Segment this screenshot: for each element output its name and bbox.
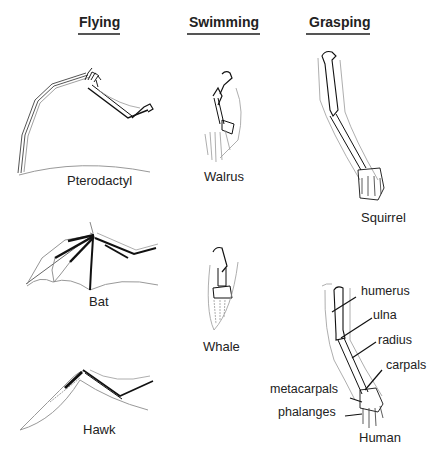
bat-wing-drawing bbox=[26, 222, 158, 290]
label-carpals: carpals bbox=[386, 358, 426, 372]
label-metacarpals: metacarpals bbox=[270, 382, 338, 396]
pterodactyl-wing-drawing bbox=[18, 68, 153, 175]
label-phalanges: phalanges bbox=[278, 405, 336, 419]
label-walrus: Walrus bbox=[204, 169, 244, 184]
label-whale: Whale bbox=[203, 339, 240, 354]
label-hawk: Hawk bbox=[83, 422, 116, 437]
label-ulna: ulna bbox=[373, 308, 397, 322]
label-squirrel: Squirrel bbox=[361, 210, 406, 225]
label-radius: radius bbox=[378, 333, 412, 347]
whale-flipper-drawing bbox=[208, 248, 238, 331]
squirrel-arm-drawing bbox=[318, 52, 384, 201]
label-humerus: humerus bbox=[361, 284, 410, 298]
hawk-wing-drawing bbox=[20, 370, 153, 430]
label-human: Human bbox=[359, 430, 401, 445]
limb-diagrams bbox=[0, 0, 438, 454]
label-pterodactyl: Pterodactyl bbox=[67, 173, 132, 188]
walrus-flipper-drawing bbox=[205, 72, 241, 162]
label-bat: Bat bbox=[89, 294, 109, 309]
